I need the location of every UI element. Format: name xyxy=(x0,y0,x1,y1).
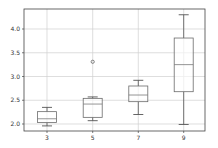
iqr-box xyxy=(83,98,102,117)
y-tick-label: 2.5 xyxy=(10,96,20,103)
x-axis: 3579 xyxy=(45,131,186,141)
x-tick-label: 5 xyxy=(91,134,95,141)
y-tick-label: 3.0 xyxy=(10,73,20,80)
iqr-box xyxy=(129,86,148,102)
box-9 xyxy=(174,15,193,125)
box-3 xyxy=(38,107,57,126)
x-tick-label: 9 xyxy=(182,134,186,141)
box-7 xyxy=(129,80,148,114)
y-tick-label: 3.5 xyxy=(10,49,20,56)
x-tick-label: 3 xyxy=(45,134,49,141)
y-axis: 2.02.53.03.54.0 xyxy=(10,25,24,127)
y-tick-label: 4.0 xyxy=(10,25,20,32)
y-tick-label: 2.0 xyxy=(10,120,20,127)
box-series xyxy=(38,15,194,126)
iqr-box xyxy=(38,112,57,123)
box-plot-chart: 2.02.53.03.54.0 3579 xyxy=(0,0,218,148)
x-tick-label: 7 xyxy=(136,134,140,141)
